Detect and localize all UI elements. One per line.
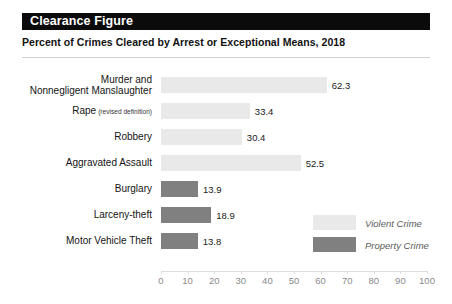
bar-value-label: 52.5 — [306, 150, 325, 176]
bar-row-label: Motor Vehicle Theft — [0, 228, 152, 254]
x-axis-tick-label: 20 — [209, 275, 220, 286]
bar-violent — [161, 77, 327, 93]
chart-subtitle: Percent of Crimes Cleared by Arrest or E… — [22, 36, 345, 48]
legend-swatch-violent — [313, 215, 356, 230]
bar-row: Rape(revised definition)33.4 — [0, 98, 452, 124]
chart-plot-area: Murder andNonnegligent Manslaughter62.3R… — [0, 66, 452, 304]
x-axis-tick — [321, 271, 322, 274]
chart-legend: Violent CrimeProperty Crime — [313, 212, 452, 256]
x-axis-tick — [294, 271, 295, 274]
x-axis-tick — [374, 271, 375, 274]
bar-value-label: 33.4 — [255, 98, 274, 124]
bar-violent — [161, 103, 250, 119]
legend-label: Violent Crime — [365, 212, 422, 234]
x-axis-tick-label: 100 — [419, 275, 435, 286]
x-axis-tick-label: 80 — [369, 275, 380, 286]
x-axis-tick — [188, 271, 189, 274]
x-axis-tick-label: 50 — [289, 275, 300, 286]
bar-property — [161, 207, 211, 223]
x-axis-tick-label: 0 — [158, 275, 163, 286]
bar-row-label: Larceny-theft — [0, 202, 152, 228]
x-axis-tick — [267, 271, 268, 274]
bar-value-label: 62.3 — [332, 72, 351, 98]
bar-row: Aggravated Assault52.5 — [0, 150, 452, 176]
bar-row-label: Aggravated Assault — [0, 150, 152, 176]
x-axis-tick-label: 60 — [315, 275, 326, 286]
x-axis-tick — [347, 271, 348, 274]
x-axis-tick-label: 40 — [262, 275, 273, 286]
header-divider — [22, 57, 430, 58]
x-axis-tick — [241, 271, 242, 274]
bar-row-label: Murder andNonnegligent Manslaughter — [0, 72, 152, 98]
bar-violent — [161, 129, 242, 145]
bar-value-label: 18.9 — [216, 202, 235, 228]
x-axis-tick-label: 10 — [182, 275, 193, 286]
bar-row-label: Rape(revised definition) — [0, 98, 152, 124]
bar-value-label: 13.9 — [203, 176, 222, 202]
legend-swatch-property — [313, 237, 356, 252]
bar-row: Robbery30.4 — [0, 124, 452, 150]
x-axis-tick-label: 70 — [342, 275, 353, 286]
x-axis-tick-label: 90 — [395, 275, 406, 286]
legend-label: Property Crime — [365, 234, 429, 256]
bar-property — [161, 233, 198, 249]
x-axis-tick — [427, 271, 428, 274]
bar-row-label: Burglary — [0, 176, 152, 202]
legend-item: Violent Crime — [313, 212, 452, 234]
x-axis-tick — [400, 271, 401, 274]
bar-value-label: 30.4 — [247, 124, 266, 150]
x-axis-tick — [214, 271, 215, 274]
bar-row: Murder andNonnegligent Manslaughter62.3 — [0, 72, 452, 98]
x-axis-tick-label: 30 — [236, 275, 247, 286]
x-axis-tick — [161, 271, 162, 274]
bar-property — [161, 181, 198, 197]
bar-row: Burglary13.9 — [0, 176, 452, 202]
legend-item: Property Crime — [313, 234, 452, 256]
page-title: Clearance Figure — [30, 14, 133, 29]
bar-value-label: 13.8 — [203, 228, 222, 254]
bar-row-label: Robbery — [0, 124, 152, 150]
bar-violent — [161, 155, 301, 171]
bar-row-label-note: (revised definition) — [96, 108, 152, 115]
